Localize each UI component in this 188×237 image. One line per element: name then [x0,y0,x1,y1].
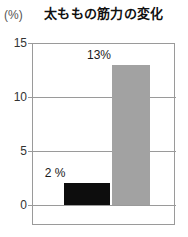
bar-after [112,65,150,205]
y-tick-label-0: 0 [1,199,27,211]
bar-value-label-before: 2 % [30,167,80,180]
bar-value-label-after: 13% [76,49,122,62]
y-tick-label-15: 15 [1,37,27,49]
chart-title: 太ももの筋力の変化 [44,3,164,22]
y-tick-label-5: 5 [1,145,27,157]
gridline-0 [33,205,176,206]
bars-layer [32,43,175,205]
y-axis: 15 10 5 0 [0,0,27,237]
bar-before [64,183,110,205]
y-tick-label-10: 10 [1,91,27,103]
chart-figure: (%) 太ももの筋力の変化 15 10 5 0 2 % 13% [0,0,188,237]
